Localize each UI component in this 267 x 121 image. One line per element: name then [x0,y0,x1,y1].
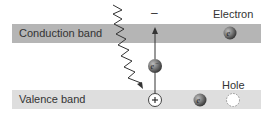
hole-plus-icon [149,94,162,107]
electron-legend-icon: e [224,27,237,40]
valence-electron-icon: e [194,94,207,107]
svg-text:e: e [151,62,155,71]
svg-text:e: e [197,96,201,105]
excited-electron-icon: e – [148,59,162,73]
diagram-graphics: e – e e [0,0,267,121]
svg-text:e: e [227,29,231,38]
photon-wave-icon [113,5,143,89]
hole-legend-icon [227,94,240,107]
